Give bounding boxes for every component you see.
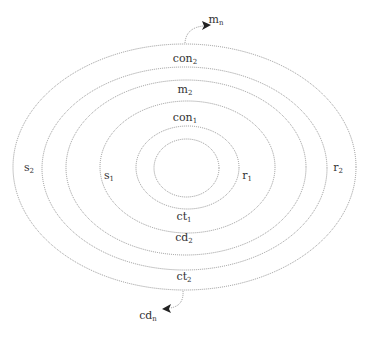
ring-2: [136, 126, 239, 209]
label-ct_2: ct2: [176, 271, 191, 284]
label-ct_1: ct1: [176, 211, 191, 224]
label-cd_n: cdn: [139, 310, 157, 323]
ring-innermost: [154, 139, 219, 197]
label-r_2: r2: [333, 162, 343, 175]
label-con_1: con1: [173, 112, 197, 125]
label-m_n: mn: [209, 14, 224, 27]
label-m_2: m2: [178, 84, 193, 97]
arrow-to-m_n: [185, 26, 203, 43]
label-s_1: s1: [104, 170, 114, 183]
arrowhead-icon: [162, 304, 171, 313]
label-cd_2: cd2: [175, 232, 193, 245]
label-s_2: s2: [24, 162, 34, 175]
arrow-to-cd_n: [170, 291, 183, 308]
ring-outermost: [13, 44, 356, 290]
ring-4: [66, 80, 306, 255]
label-con_2: con2: [173, 53, 197, 66]
label-r_1: r1: [242, 170, 252, 183]
